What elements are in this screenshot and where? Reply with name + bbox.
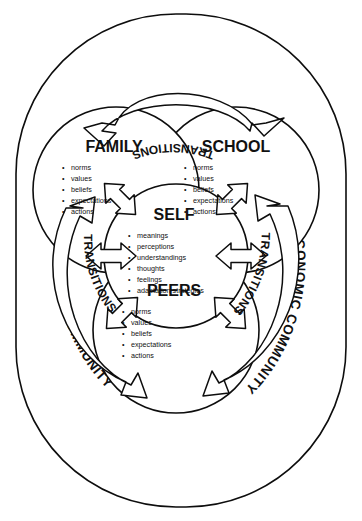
list-item-text: understandings (137, 253, 187, 262)
list-item-text: expectations (193, 196, 234, 205)
list-item-text: norms (131, 307, 151, 316)
list-item-text: meanings (137, 231, 169, 240)
list-item-text: expectations (131, 340, 172, 349)
list-item-text: values (71, 174, 92, 183)
list-item-text: beliefs (131, 329, 152, 338)
figure-canvas: LARGER SOCIOECONOMIC COMMUNITY LARGER SO… (0, 0, 362, 521)
list-item-text: feelings (137, 275, 162, 284)
list-item-text: norms (193, 163, 213, 172)
diagram-svg: LARGER SOCIOECONOMIC COMMUNITY LARGER SO… (0, 0, 362, 521)
list-item-text: values (193, 174, 214, 183)
list-item-text: adaptation strategies (137, 286, 204, 295)
edge-caption (345, 418, 361, 518)
node-title-school: SCHOOL (202, 138, 271, 155)
node-title-family: FAMILY (85, 138, 143, 155)
list-item-text: actions (193, 207, 216, 216)
list-item-text: expectations (71, 196, 112, 205)
list-item-text: values (131, 318, 152, 327)
node-title-self: SELF (154, 206, 195, 223)
list-item-text: perceptions (137, 242, 175, 251)
list-item-text: actions (71, 207, 94, 216)
list-item-text: norms (71, 163, 91, 172)
list-item-text: actions (131, 351, 154, 360)
list-item-text: beliefs (71, 185, 92, 194)
list-item-text: beliefs (193, 185, 214, 194)
list-item-text: thoughts (137, 264, 165, 273)
